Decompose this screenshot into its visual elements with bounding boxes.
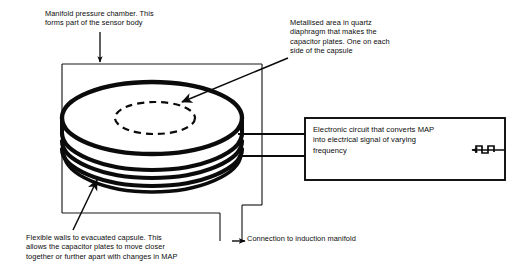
callout-flexible-walls: Flexible walls to evacuated capsule. Thi… bbox=[26, 233, 231, 261]
callout-metallised-area: Metallised area in quartz diaphragm that… bbox=[290, 18, 440, 56]
label-electronic-circuit: Electronic circuit that converts MAP int… bbox=[313, 125, 491, 156]
leader-flexible-walls bbox=[73, 180, 97, 230]
leader-metallised-area bbox=[182, 58, 288, 102]
callout-manifold-pressure-chamber: Manifold pressure chamber. This forms pa… bbox=[45, 9, 205, 28]
capsule-to-circuit-wires bbox=[238, 134, 305, 156]
callout-connection-to-induction-manifold: Connection to induction manifold bbox=[247, 234, 417, 243]
diagram-canvas: Manifold pressure chamber. This forms pa… bbox=[0, 0, 518, 278]
capsule-top-face bbox=[62, 82, 242, 154]
